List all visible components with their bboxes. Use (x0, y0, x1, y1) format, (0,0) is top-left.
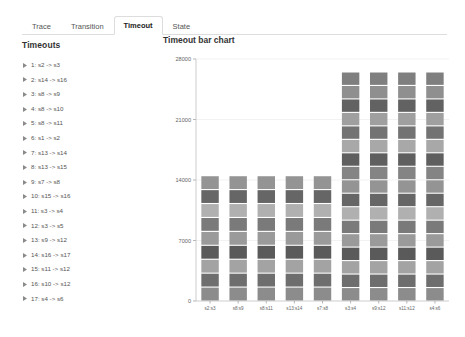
bar-segment[interactable] (201, 246, 218, 259)
timeout-list-item[interactable]: 17: s4 -> s6 (22, 292, 152, 307)
bar-segment[interactable] (229, 260, 246, 273)
bar-segment[interactable] (229, 274, 246, 287)
bar-segment[interactable] (426, 99, 443, 111)
bar-segment[interactable] (286, 246, 303, 259)
bar-segment[interactable] (426, 86, 443, 98)
bar-segment[interactable] (370, 221, 387, 233)
bar-segment[interactable] (258, 260, 275, 273)
timeout-list-item[interactable]: 16: s10 -> s12 (22, 277, 152, 292)
timeout-list-item[interactable]: 8: s13 -> s15 (22, 160, 152, 175)
bar-segment[interactable] (342, 248, 359, 260)
bar-segment[interactable] (314, 218, 331, 231)
bar-group[interactable] (201, 176, 218, 300)
bar-group[interactable] (370, 73, 387, 301)
bar-segment[interactable] (314, 176, 331, 189)
bar-segment[interactable] (370, 167, 387, 179)
bar-segment[interactable] (370, 180, 387, 192)
bar-segment[interactable] (370, 275, 387, 287)
bar-segment[interactable] (342, 126, 359, 138)
bar-segment[interactable] (342, 99, 359, 111)
bar-segment[interactable] (314, 204, 331, 217)
bar-segment[interactable] (370, 140, 387, 152)
bar-segment[interactable] (201, 204, 218, 217)
timeout-list-item[interactable]: 2: s14 -> s16 (22, 73, 152, 88)
bar-segment[interactable] (342, 86, 359, 98)
timeout-list-item[interactable]: 14: s16 -> s17 (22, 248, 152, 263)
bar-segment[interactable] (201, 288, 218, 301)
bar-segment[interactable] (286, 232, 303, 245)
bar-segment[interactable] (398, 126, 415, 138)
bar-segment[interactable] (370, 126, 387, 138)
bar-segment[interactable] (286, 218, 303, 231)
bar-segment[interactable] (426, 221, 443, 233)
bar-segment[interactable] (314, 232, 331, 245)
bar-segment[interactable] (229, 246, 246, 259)
timeout-list-item[interactable]: 10: s15 -> s16 (22, 189, 152, 204)
bar-segment[interactable] (398, 140, 415, 152)
bar-segment[interactable] (398, 113, 415, 125)
bar-segment[interactable] (342, 275, 359, 287)
bar-segment[interactable] (258, 204, 275, 217)
bar-segment[interactable] (342, 180, 359, 192)
bar-segment[interactable] (342, 167, 359, 179)
bar-segment[interactable] (258, 246, 275, 259)
bar-segment[interactable] (342, 234, 359, 246)
bar-segment[interactable] (201, 232, 218, 245)
bar-segment[interactable] (370, 73, 387, 85)
bar-segment[interactable] (426, 73, 443, 85)
bar-segment[interactable] (314, 190, 331, 203)
bar-segment[interactable] (201, 274, 218, 287)
bar-segment[interactable] (426, 153, 443, 165)
timeout-list-item[interactable]: 11: s3 -> s4 (22, 204, 152, 219)
timeout-list-item[interactable]: 15: s11 -> s12 (22, 262, 152, 277)
bar-segment[interactable] (426, 248, 443, 260)
bar-segment[interactable] (426, 261, 443, 273)
bar-segment[interactable] (258, 232, 275, 245)
bar-segment[interactable] (342, 73, 359, 85)
tab-trace[interactable]: Trace (22, 17, 61, 36)
bar-segment[interactable] (370, 207, 387, 219)
bar-segment[interactable] (426, 234, 443, 246)
bar-segment[interactable] (201, 176, 218, 189)
bar-segment[interactable] (258, 190, 275, 203)
bar-segment[interactable] (426, 207, 443, 219)
bar-segment[interactable] (426, 180, 443, 192)
bar-segment[interactable] (229, 218, 246, 231)
bar-group[interactable] (258, 176, 275, 300)
bar-segment[interactable] (314, 260, 331, 273)
bar-segment[interactable] (398, 261, 415, 273)
bar-segment[interactable] (370, 194, 387, 206)
bar-group[interactable] (314, 176, 331, 300)
bar-segment[interactable] (258, 274, 275, 287)
bar-segment[interactable] (314, 246, 331, 259)
bar-segment[interactable] (370, 113, 387, 125)
bar-segment[interactable] (398, 99, 415, 111)
bar-segment[interactable] (426, 288, 443, 300)
bar-segment[interactable] (398, 194, 415, 206)
bar-segment[interactable] (201, 260, 218, 273)
bar-segment[interactable] (229, 288, 246, 301)
bar-segment[interactable] (201, 190, 218, 203)
bar-segment[interactable] (370, 248, 387, 260)
bar-segment[interactable] (398, 73, 415, 85)
bar-group[interactable] (398, 73, 415, 301)
bar-segment[interactable] (286, 274, 303, 287)
bar-segment[interactable] (342, 113, 359, 125)
bar-segment[interactable] (342, 261, 359, 273)
bar-segment[interactable] (426, 167, 443, 179)
timeout-list-item[interactable]: 5: s8 -> s11 (22, 116, 152, 131)
bar-segment[interactable] (258, 288, 275, 301)
bar-segment[interactable] (314, 274, 331, 287)
bar-group[interactable] (286, 176, 303, 300)
bar-segment[interactable] (398, 248, 415, 260)
bar-segment[interactable] (229, 232, 246, 245)
timeout-list-item[interactable]: 4: s8 -> s10 (22, 102, 152, 117)
bar-segment[interactable] (398, 207, 415, 219)
bar-segment[interactable] (229, 190, 246, 203)
tab-timeout[interactable]: Timeout (114, 16, 163, 36)
bar-segment[interactable] (426, 194, 443, 206)
bar-segment[interactable] (370, 153, 387, 165)
timeout-list-item[interactable]: 7: s13 -> s14 (22, 146, 152, 161)
bar-segment[interactable] (286, 260, 303, 273)
bar-segment[interactable] (201, 218, 218, 231)
